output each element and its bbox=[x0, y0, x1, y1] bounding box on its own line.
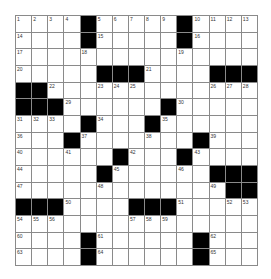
crossword-cell[interactable] bbox=[226, 233, 242, 250]
crossword-cell[interactable]: 29 bbox=[64, 99, 80, 116]
crossword-cell[interactable] bbox=[48, 233, 64, 250]
crossword-cell[interactable] bbox=[210, 216, 226, 233]
crossword-cell[interactable]: 52 bbox=[226, 199, 242, 216]
crossword-cell[interactable] bbox=[32, 49, 48, 66]
crossword-cell[interactable]: 24 bbox=[113, 83, 129, 100]
crossword-cell[interactable] bbox=[145, 149, 161, 166]
crossword-cell[interactable] bbox=[64, 33, 80, 50]
crossword-cell[interactable] bbox=[177, 133, 193, 150]
crossword-cell[interactable] bbox=[210, 199, 226, 216]
crossword-cell[interactable] bbox=[161, 83, 177, 100]
crossword-cell[interactable] bbox=[64, 83, 80, 100]
crossword-cell[interactable] bbox=[145, 183, 161, 200]
crossword-cell[interactable] bbox=[48, 149, 64, 166]
crossword-cell[interactable] bbox=[226, 116, 242, 133]
crossword-cell[interactable]: 7 bbox=[129, 16, 145, 33]
crossword-cell[interactable] bbox=[97, 49, 113, 66]
crossword-cell[interactable] bbox=[64, 216, 80, 233]
crossword-cell[interactable] bbox=[32, 66, 48, 83]
crossword-cell[interactable] bbox=[242, 33, 258, 50]
crossword-cell[interactable] bbox=[193, 66, 209, 83]
crossword-cell[interactable]: 45 bbox=[113, 166, 129, 183]
crossword-cell[interactable] bbox=[193, 99, 209, 116]
crossword-cell[interactable]: 10 bbox=[193, 16, 209, 33]
crossword-cell[interactable] bbox=[193, 83, 209, 100]
crossword-cell[interactable]: 28 bbox=[242, 83, 258, 100]
crossword-cell[interactable]: 17 bbox=[16, 49, 32, 66]
crossword-cell[interactable]: 1 bbox=[16, 16, 32, 33]
crossword-cell[interactable] bbox=[32, 233, 48, 250]
crossword-cell[interactable] bbox=[81, 199, 97, 216]
crossword-cell[interactable] bbox=[226, 149, 242, 166]
crossword-cell[interactable] bbox=[242, 249, 258, 266]
crossword-cell[interactable]: 26 bbox=[210, 83, 226, 100]
crossword-cell[interactable] bbox=[177, 233, 193, 250]
crossword-cell[interactable] bbox=[113, 183, 129, 200]
crossword-cell[interactable]: 37 bbox=[81, 133, 97, 150]
crossword-cell[interactable]: 60 bbox=[16, 233, 32, 250]
crossword-cell[interactable] bbox=[129, 183, 145, 200]
crossword-cell[interactable]: 19 bbox=[177, 49, 193, 66]
crossword-cell[interactable] bbox=[32, 166, 48, 183]
crossword-cell[interactable]: 51 bbox=[177, 199, 193, 216]
crossword-cell[interactable] bbox=[145, 49, 161, 66]
crossword-cell[interactable]: 42 bbox=[129, 149, 145, 166]
crossword-cell[interactable] bbox=[32, 183, 48, 200]
crossword-cell[interactable]: 47 bbox=[16, 183, 32, 200]
crossword-cell[interactable]: 32 bbox=[32, 116, 48, 133]
crossword-cell[interactable] bbox=[161, 66, 177, 83]
crossword-cell[interactable] bbox=[161, 233, 177, 250]
crossword-cell[interactable]: 31 bbox=[16, 116, 32, 133]
crossword-cell[interactable]: 35 bbox=[161, 116, 177, 133]
crossword-cell[interactable]: 55 bbox=[32, 216, 48, 233]
crossword-cell[interactable]: 57 bbox=[129, 216, 145, 233]
crossword-cell[interactable]: 27 bbox=[226, 83, 242, 100]
crossword-cell[interactable] bbox=[32, 33, 48, 50]
crossword-cell[interactable] bbox=[161, 33, 177, 50]
crossword-cell[interactable] bbox=[161, 166, 177, 183]
crossword-cell[interactable]: 48 bbox=[97, 183, 113, 200]
crossword-cell[interactable] bbox=[64, 66, 80, 83]
crossword-cell[interactable] bbox=[32, 133, 48, 150]
crossword-cell[interactable] bbox=[129, 49, 145, 66]
crossword-cell[interactable]: 38 bbox=[145, 133, 161, 150]
crossword-cell[interactable] bbox=[226, 249, 242, 266]
crossword-cell[interactable] bbox=[97, 199, 113, 216]
crossword-cell[interactable] bbox=[81, 66, 97, 83]
crossword-cell[interactable]: 39 bbox=[210, 133, 226, 150]
crossword-cell[interactable]: 62 bbox=[210, 233, 226, 250]
crossword-cell[interactable] bbox=[97, 216, 113, 233]
crossword-cell[interactable] bbox=[48, 183, 64, 200]
crossword-cell[interactable] bbox=[48, 133, 64, 150]
crossword-cell[interactable] bbox=[48, 66, 64, 83]
crossword-cell[interactable] bbox=[226, 133, 242, 150]
crossword-cell[interactable] bbox=[242, 49, 258, 66]
crossword-cell[interactable]: 4 bbox=[64, 16, 80, 33]
crossword-cell[interactable]: 12 bbox=[226, 16, 242, 33]
crossword-cell[interactable] bbox=[64, 116, 80, 133]
crossword-cell[interactable]: 44 bbox=[16, 166, 32, 183]
crossword-cell[interactable] bbox=[113, 99, 129, 116]
crossword-cell[interactable] bbox=[242, 133, 258, 150]
crossword-cell[interactable] bbox=[81, 166, 97, 183]
crossword-cell[interactable] bbox=[177, 216, 193, 233]
crossword-cell[interactable] bbox=[113, 116, 129, 133]
crossword-cell[interactable] bbox=[64, 166, 80, 183]
crossword-cell[interactable] bbox=[145, 33, 161, 50]
crossword-cell[interactable]: 22 bbox=[48, 83, 64, 100]
crossword-cell[interactable] bbox=[193, 116, 209, 133]
crossword-cell[interactable] bbox=[129, 33, 145, 50]
crossword-cell[interactable] bbox=[81, 149, 97, 166]
crossword-cell[interactable] bbox=[177, 183, 193, 200]
crossword-cell[interactable] bbox=[129, 166, 145, 183]
crossword-cell[interactable] bbox=[193, 49, 209, 66]
crossword-cell[interactable] bbox=[242, 116, 258, 133]
crossword-cell[interactable]: 16 bbox=[193, 33, 209, 50]
crossword-cell[interactable] bbox=[161, 183, 177, 200]
crossword-cell[interactable]: 54 bbox=[16, 216, 32, 233]
crossword-cell[interactable] bbox=[48, 49, 64, 66]
crossword-cell[interactable] bbox=[32, 249, 48, 266]
crossword-cell[interactable] bbox=[210, 33, 226, 50]
crossword-cell[interactable] bbox=[242, 216, 258, 233]
crossword-cell[interactable] bbox=[226, 33, 242, 50]
